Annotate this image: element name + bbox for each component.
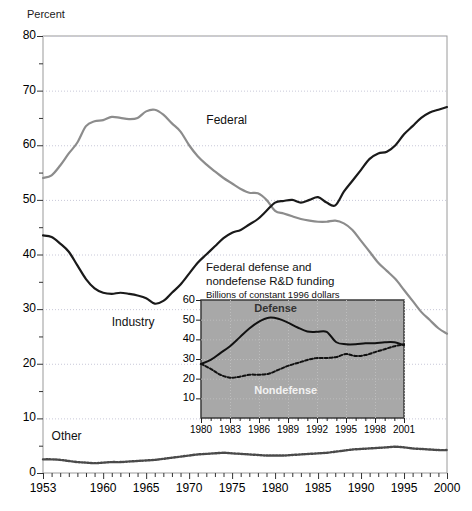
y-tick-label: 40 [6,247,36,261]
inset-x-tick-label: 1983 [214,424,246,435]
y-tick-label: 30 [6,301,36,315]
y-tick-label: 20 [6,356,36,370]
inset-x-tick-label: 1986 [243,424,275,435]
inset-y-tick-label: 20 [173,372,195,384]
series-annotation-other: Other [52,429,82,443]
x-tick-label: 1990 [338,481,384,495]
inset-title-line2: nondefense R&D funding [206,275,335,288]
x-tick-label: 1985 [295,481,341,495]
inset-y-tick-label: 40 [173,332,195,344]
y-tick-label: 70 [6,83,36,97]
inset-series-annotation-defense: Defense [254,302,297,314]
inset-subtitle: Billions of constant 1996 dollars [206,289,340,300]
x-tick-label: 1965 [123,481,169,495]
inset-x-tick-label: 1998 [359,424,391,435]
x-tick-label: 2000 [424,481,470,495]
y-tick-label: 10 [6,410,36,424]
chart-figure: Percent 01020304050607080195319601965197… [0,0,472,511]
inset-series-annotation-nondefense: Nondefense [254,384,317,396]
inset-title-line1: Federal defense and [206,261,312,274]
inset-x-tick-label: 1992 [301,424,333,435]
y-tick-label: 80 [6,28,36,42]
x-tick-label: 1970 [166,481,212,495]
y-tick-label: 0 [6,465,36,479]
inset-y-tick-label: 60 [173,293,195,305]
series-annotation-federal: Federal [206,113,247,127]
x-tick-label: 1953 [20,481,66,495]
inset-y-tick-label: 50 [173,313,195,325]
inset-x-tick-label: 1995 [330,424,362,435]
inset-y-tick-label: 30 [173,352,195,364]
inset-y-tick-label: 10 [173,391,195,403]
inset-x-tick-label: 1989 [272,424,304,435]
y-tick-label: 60 [6,137,36,151]
inset-x-tick-label: 1980 [185,424,217,435]
y-axis-title: Percent [27,8,65,20]
inset-x-tick-label: 2001 [388,424,420,435]
x-tick-label: 1980 [252,481,298,495]
series-annotation-industry: Industry [112,315,155,329]
x-tick-label: 1975 [209,481,255,495]
x-tick-label: 1995 [381,481,427,495]
y-tick-label: 50 [6,192,36,206]
x-tick-label: 1960 [80,481,126,495]
